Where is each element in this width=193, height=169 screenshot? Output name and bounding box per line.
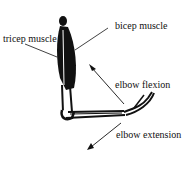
bicep-leader-line: [75, 28, 108, 50]
tricep-leader-line: [25, 44, 57, 57]
arm-diagram: tricep muscle bicep muscle elbow flexion…: [0, 0, 193, 169]
bicep-label: bicep muscle: [115, 21, 167, 31]
tricep-label: tricep muscle: [3, 34, 57, 44]
extension-label: elbow extension: [116, 130, 181, 140]
hand: [124, 92, 154, 115]
flexion-label: elbow flexion: [115, 80, 170, 90]
forearm: [66, 111, 125, 118]
shoulder-joint: [59, 16, 67, 26]
upper-arm-muscles: [57, 26, 76, 90]
